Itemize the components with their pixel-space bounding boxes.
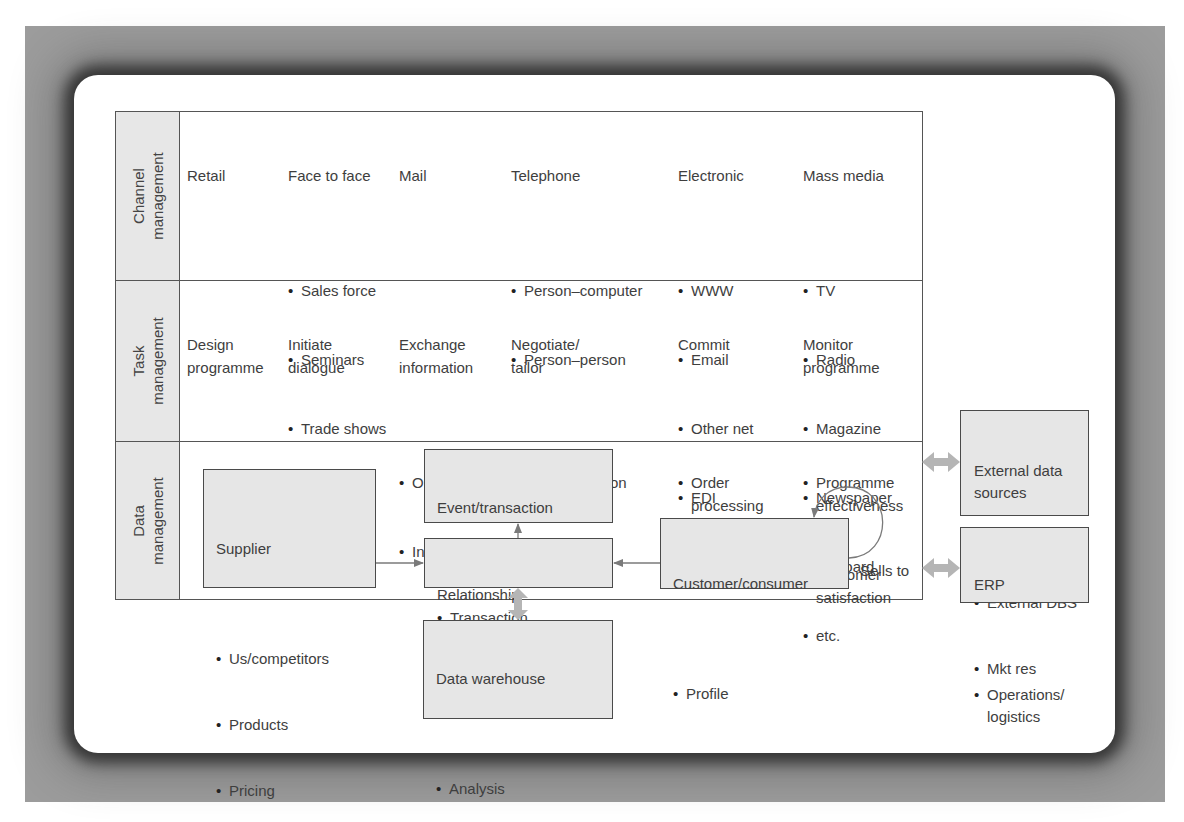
cell-heading: Telephone (511, 164, 642, 187)
box-title: Supplier (216, 538, 363, 560)
cell-heading: Negotiate/ tailor (511, 333, 627, 379)
row-label-text: Data management (129, 477, 167, 565)
supplier-box: Supplier Us/competitors Products Pricing (203, 469, 376, 588)
box-title: Data warehouse (436, 668, 600, 690)
row-label-channel: Channel management (116, 112, 180, 280)
list-item: Operations/ logistics (974, 684, 1088, 728)
row-task-management: Task management Design programme Initiat… (116, 281, 922, 442)
cell-mail: Mail (399, 118, 427, 233)
box-title: Event/transaction (437, 497, 600, 519)
event-transaction-box: Event/transaction Transaction Contact de… (424, 449, 613, 523)
row-label-text: Task management (129, 317, 167, 405)
list-item: Us/competitors (216, 648, 363, 670)
row-label-task: Task management (116, 281, 180, 441)
data-warehouse-box: Data warehouse Analysis Planning Monitor… (423, 620, 613, 719)
list-item: Analysis (436, 778, 600, 800)
cell-heading: Commit (678, 333, 764, 379)
box-title: External data sources (974, 460, 1088, 504)
cell-heading: Monitor programme (803, 333, 903, 379)
box-title: ERP (974, 574, 1088, 596)
cell-heading: Mass media (803, 164, 892, 187)
customer-consumer-box: Customer/consumer Profile (660, 518, 849, 589)
cell-heading: Retail (187, 164, 225, 187)
cell-heading: Electronic (678, 164, 754, 187)
cell-heading: Mail (399, 164, 427, 187)
cell-design-programme: Design programme (187, 287, 264, 425)
list-item: Pricing (216, 780, 363, 802)
external-data-sources-box: External data sources External DBS Mkt r… (960, 410, 1089, 516)
cell-retail: Retail (187, 118, 225, 233)
box-title: Customer/consumer (673, 573, 836, 595)
row-label-data: Data management (116, 442, 180, 599)
cell-heading: Face to face (288, 164, 386, 187)
erp-box: ERP Operations/ logistics (960, 527, 1089, 603)
box-title: Relationship (437, 584, 600, 606)
sells-to-label: Sells to (860, 562, 909, 579)
cell-heading: Design programme (187, 333, 264, 379)
row-label-text: Channel management (129, 152, 167, 240)
cell-heading: Initiate dialogue (288, 333, 367, 379)
cell-heading: Exchange information (399, 333, 478, 379)
row-channel-management: Channel management Retail Face to face S… (116, 112, 922, 281)
list-item: Profile (673, 683, 836, 705)
relationship-box: Relationship NPV (424, 538, 613, 588)
list-item: Products (216, 714, 363, 736)
